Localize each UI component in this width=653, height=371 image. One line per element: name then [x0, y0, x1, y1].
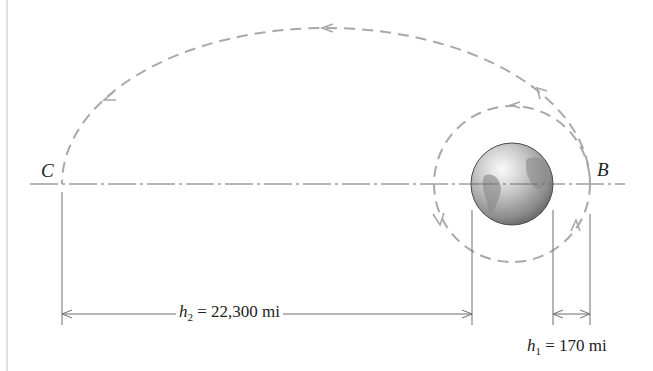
arrow-icon — [433, 213, 444, 225]
arrow-icon — [571, 220, 580, 231]
h2-equals: = — [193, 302, 211, 321]
h1-equals: = — [541, 336, 559, 355]
point-b-label: B — [597, 159, 609, 181]
arrow-icon — [511, 102, 520, 108]
orbit-diagram — [0, 0, 653, 371]
h2-label: h2 = 22,300 mi — [176, 302, 283, 323]
h1-symbol: h — [527, 336, 536, 355]
earth-globe — [471, 143, 553, 225]
h2-value: 22,300 mi — [211, 302, 280, 321]
h1-label: h1 = 170 mi — [524, 336, 610, 357]
h2-symbol: h — [179, 302, 188, 321]
h1-value: 170 mi — [559, 336, 607, 355]
point-c-label: C — [41, 160, 54, 182]
